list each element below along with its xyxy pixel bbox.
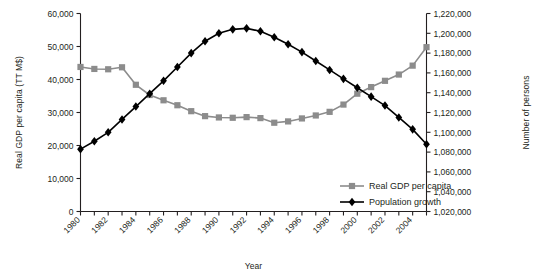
- y-axis-left-tick-label: 30,000: [48, 108, 74, 118]
- y-axis-right-tick-label: 1,120,000: [434, 108, 472, 118]
- legend-label: Population growth: [369, 197, 441, 207]
- series-marker-real-gdp-per-capita: [77, 64, 83, 70]
- y-axis-right-tick-label: 1,060,000: [434, 167, 472, 177]
- series-marker-population-growth: [216, 29, 223, 38]
- series-marker-real-gdp-per-capita: [230, 115, 236, 121]
- series-marker-population-growth: [77, 145, 84, 154]
- series-marker-real-gdp-per-capita: [133, 82, 139, 88]
- y-axis-left-title: Real GDP per capita (TT M$): [14, 56, 24, 169]
- y-axis-left-tick-label: 40,000: [48, 75, 74, 85]
- x-axis-tick-label: 2002: [366, 215, 387, 236]
- series-marker-population-growth: [243, 24, 250, 33]
- x-axis-tick-label: 1998: [311, 215, 332, 236]
- y-axis-right-tick-label: 1,220,000: [434, 9, 472, 19]
- y-axis-left-tick-label: 20,000: [48, 141, 74, 151]
- series-marker-real-gdp-per-capita: [299, 115, 305, 121]
- series-marker-population-growth: [340, 75, 347, 84]
- y-axis-right-tick-label: 1,020,000: [434, 207, 472, 217]
- series-marker-real-gdp-per-capita: [382, 78, 388, 84]
- y-axis-left-tick-label: 50,000: [48, 42, 74, 52]
- series-marker-real-gdp-per-capita: [340, 101, 346, 107]
- x-axis-tick-label: 1988: [172, 215, 193, 236]
- x-axis-tick-label: 1984: [117, 215, 138, 236]
- dual-axis-line-chart: 010,00020,00030,00040,00050,00060,0001,0…: [0, 0, 547, 274]
- series-marker-real-gdp-per-capita: [285, 118, 291, 124]
- legend-label: Real GDP per capita: [369, 181, 451, 191]
- series-marker-population-growth: [91, 137, 98, 146]
- x-axis-tick-label: 1992: [228, 215, 249, 236]
- y-axis-left-tick-label: 0: [69, 207, 74, 217]
- series-marker-population-growth: [257, 27, 264, 36]
- x-axis-tick-label: 1990: [200, 215, 221, 236]
- series-marker-population-growth: [299, 48, 306, 57]
- legend-marker-square: [349, 183, 355, 189]
- x-axis-tick-label: 1980: [61, 215, 82, 236]
- series-marker-population-growth: [285, 40, 292, 49]
- series-marker-population-growth: [229, 25, 236, 34]
- x-axis-tick-label: 1994: [255, 215, 276, 236]
- series-marker-population-growth: [368, 92, 375, 101]
- y-axis-right-tick-label: 1,100,000: [434, 128, 472, 138]
- series-marker-real-gdp-per-capita: [410, 63, 416, 69]
- x-axis-tick-label: 1986: [145, 215, 166, 236]
- series-marker-real-gdp-per-capita: [160, 97, 166, 103]
- x-axis-tick-label: 2004: [394, 215, 415, 236]
- y-axis-right-tick-label: 1,140,000: [434, 88, 472, 98]
- x-axis-tick-label: 1982: [89, 215, 110, 236]
- y-axis-right-tick-label: 1,200,000: [434, 29, 472, 39]
- series-marker-real-gdp-per-capita: [105, 66, 111, 72]
- series-line-real-gdp-per-capita: [81, 47, 427, 123]
- series-marker-real-gdp-per-capita: [174, 102, 180, 108]
- series-marker-real-gdp-per-capita: [368, 84, 374, 90]
- series-marker-real-gdp-per-capita: [188, 108, 194, 114]
- x-axis-tick-label: 1996: [283, 215, 304, 236]
- y-axis-left-tick-label: 60,000: [48, 9, 74, 19]
- y-axis-right-tick-label: 1,180,000: [434, 48, 472, 58]
- legend-marker-diamond: [349, 198, 356, 207]
- series-marker-real-gdp-per-capita: [313, 112, 319, 118]
- series-marker-population-growth: [312, 57, 319, 66]
- x-axis-title: Year: [245, 261, 263, 271]
- series-marker-real-gdp-per-capita: [327, 109, 333, 115]
- series-marker-real-gdp-per-capita: [91, 66, 97, 72]
- y-axis-right-tick-label: 1,080,000: [434, 147, 472, 157]
- series-marker-real-gdp-per-capita: [216, 114, 222, 120]
- y-axis-right-title: Number of persons: [521, 76, 531, 150]
- chart-figure: 010,00020,00030,00040,00050,00060,0001,0…: [0, 0, 547, 274]
- series-line-population-growth: [81, 28, 427, 149]
- series-marker-real-gdp-per-capita: [271, 120, 277, 126]
- series-marker-real-gdp-per-capita: [423, 44, 429, 50]
- series-marker-real-gdp-per-capita: [119, 64, 125, 70]
- series-marker-real-gdp-per-capita: [243, 114, 249, 120]
- series-marker-population-growth: [326, 66, 333, 75]
- series-marker-real-gdp-per-capita: [257, 115, 263, 121]
- y-axis-right-tick-label: 1,160,000: [434, 68, 472, 78]
- series-marker-population-growth: [271, 33, 278, 42]
- series-marker-real-gdp-per-capita: [202, 113, 208, 119]
- y-axis-left-tick-label: 10,000: [48, 174, 74, 184]
- series-marker-real-gdp-per-capita: [396, 71, 402, 77]
- x-axis-tick-label: 2000: [338, 215, 359, 236]
